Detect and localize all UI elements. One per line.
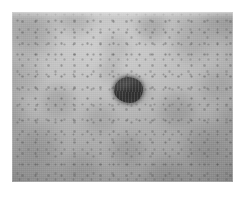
- figure-root: [0, 0, 245, 197]
- image-caption: [0, 0, 1, 1]
- skin-photograph: [12, 12, 233, 182]
- vignette-layer: [12, 12, 233, 182]
